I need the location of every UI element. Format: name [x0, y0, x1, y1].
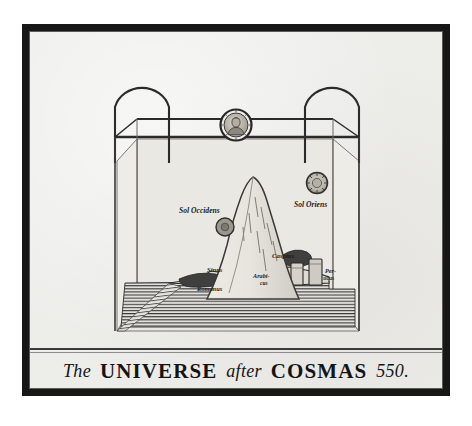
ceiling-connector-right: [333, 119, 359, 137]
engraving-plate: Sol Occidens Sol Oriens Caspius Sinus Ro…: [0, 0, 472, 426]
label-persicus-line2: sicus: [322, 275, 334, 281]
ceiling-connector-left: [115, 119, 137, 137]
label-persicus-line1: Per-: [325, 267, 336, 274]
caption-year: 550.: [376, 361, 409, 382]
caption-the: The: [63, 361, 91, 382]
sun-occidens: [216, 218, 234, 236]
cosmos-diagram: Sol Occidens Sol Oriens Caspius Sinus Ro…: [29, 31, 443, 347]
label-sinus: Sinus: [207, 266, 223, 273]
tower-left: [291, 263, 303, 285]
label-arabicus-line1: Arabi-: [252, 272, 270, 279]
caption-cosmas: COSMAS: [271, 359, 367, 384]
caption-after: after: [226, 361, 262, 382]
label-sol-occidens: Sol Occidens: [179, 206, 220, 215]
label-sol-oriens: Sol Oriens: [294, 200, 327, 209]
sun-occidens-core: [221, 223, 229, 231]
tower-right: [309, 259, 322, 285]
sun-oriens: [307, 173, 328, 194]
plate-caption: The UNIVERSE after COSMAS 550.: [30, 353, 442, 389]
christ-medallion: [221, 110, 252, 141]
sun-oriens-core: [312, 178, 321, 187]
caption-divider: [30, 348, 442, 350]
caption-universe: UNIVERSE: [100, 359, 217, 384]
label-caspius: Caspius: [272, 252, 295, 259]
label-romanus: Romanus: [196, 285, 223, 292]
label-arabicus-line2: cus: [260, 280, 268, 286]
